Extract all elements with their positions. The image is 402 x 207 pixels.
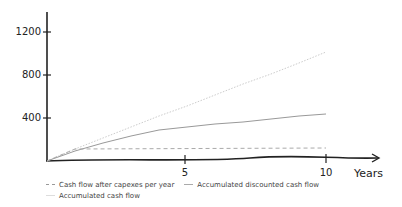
y-tick-400: 400 [22,112,41,123]
x-tick-10: 10 [320,167,333,178]
legend-item-accumulated-discounted: Accumulated discounted cash flow [184,181,319,189]
chart: 1200 800 400 5 10 Years Cash flow after … [0,0,402,207]
series-accumulated-discounted-cash-flow [47,114,326,161]
x-axis [46,156,378,161]
chart-plot: 1200 800 400 5 10 Years [0,0,402,207]
series-accumulated-cash-flow [47,52,326,161]
x-tick-5: 5 [182,167,188,178]
x-axis-title: Years [353,167,383,180]
legend: Cash flow after capexes per year Accumul… [46,179,329,201]
legend-item-accumulated-cash-flow: Accumulated cash flow [46,192,140,200]
y-tick-800: 800 [22,69,41,80]
y-tick-1200: 1200 [16,26,41,37]
legend-item-cash-flow-per-year: Cash flow after capexes per year [46,181,174,189]
